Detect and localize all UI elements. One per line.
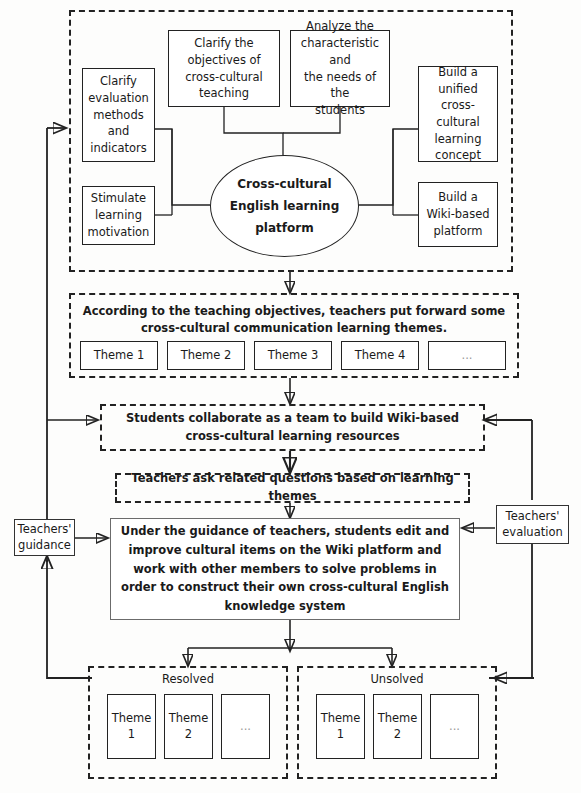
box-clarify-evaluation[interactable]: Clarify evaluation methods and indicator… xyxy=(82,68,155,162)
step-main-wiki-editing[interactable]: Under the guidance of teachers, students… xyxy=(110,518,460,620)
resolved-theme-box-more[interactable]: ... xyxy=(221,694,270,759)
box-build-unified-concept-label: Build a unified cross- cultural learning… xyxy=(422,64,494,164)
unsolved-theme-box-more[interactable]: ... xyxy=(430,694,479,759)
center-node-platform[interactable]: Cross-cultural English learning platform xyxy=(210,155,359,257)
node-teachers-guidance-label: Teachers' guidance xyxy=(15,522,74,553)
unsolved-theme-box-2-label: Theme 2 xyxy=(378,711,418,742)
resolved-theme-box-2-label: Theme 2 xyxy=(169,711,209,742)
theme-box-2-label: Theme 2 xyxy=(181,348,232,364)
theme-box-more-label: ... xyxy=(462,348,473,364)
unsolved-theme-box-1[interactable]: Theme 1 xyxy=(316,694,365,759)
theme-box-3[interactable]: Theme 3 xyxy=(254,341,332,370)
unsolved-theme-box-1-label: Theme 1 xyxy=(321,711,361,742)
resolved-theme-box-more-label: ... xyxy=(240,719,251,735)
node-teachers-guidance[interactable]: Teachers' guidance xyxy=(14,519,75,556)
theme-box-4[interactable]: Theme 4 xyxy=(341,341,419,370)
resolved-theme-box-2[interactable]: Theme 2 xyxy=(164,694,213,759)
box-clarify-evaluation-label: Clarify evaluation methods and indicator… xyxy=(86,73,151,156)
box-build-unified-concept[interactable]: Build a unified cross- cultural learning… xyxy=(418,66,498,162)
box-stimulate-motivation[interactable]: Stimulate learning motivation xyxy=(82,186,155,245)
theme-box-1[interactable]: Theme 1 xyxy=(80,341,158,370)
unsolved-theme-box-more-label: ... xyxy=(449,719,460,735)
node-teachers-evaluation-label: Teachers' evaluation xyxy=(497,509,568,540)
box-analyze-characteristic[interactable]: Analyze the characteristic and the needs… xyxy=(290,30,390,107)
unsolved-theme-box-2[interactable]: Theme 2 xyxy=(373,694,422,759)
step-students-collaborate-label: Students collaborate as a team to build … xyxy=(108,410,477,446)
box-clarify-objectives[interactable]: Clarify the objectives of cross-cultural… xyxy=(168,30,280,107)
theme-box-1-label: Theme 1 xyxy=(94,348,145,364)
resolved-theme-box-1[interactable]: Theme 1 xyxy=(107,694,156,759)
step-teachers-questions-label: Teachers ask related questions based on … xyxy=(123,470,462,506)
resolved-region-label: Resolved xyxy=(88,672,288,686)
step-main-wiki-editing-label: Under the guidance of teachers, students… xyxy=(119,522,451,617)
node-teachers-evaluation[interactable]: Teachers' evaluation xyxy=(496,505,569,544)
step-teachers-questions[interactable]: Teachers ask related questions based on … xyxy=(115,473,470,503)
unsolved-region-label: Unsolved xyxy=(297,672,497,686)
box-analyze-characteristic-label: Analyze the characteristic and the needs… xyxy=(294,18,386,118)
box-stimulate-motivation-label: Stimulate learning motivation xyxy=(86,190,151,240)
themes-region-heading: According to the teaching objectives, te… xyxy=(80,303,508,338)
box-build-wiki-platform-label: Build a Wiki-based platform xyxy=(422,189,494,239)
theme-box-more[interactable]: ... xyxy=(428,341,506,370)
center-node-label: Cross-cultural English learning platform xyxy=(211,173,358,240)
resolved-theme-box-1-label: Theme 1 xyxy=(112,711,152,742)
flowchart-canvas: Clarify evaluation methods and indicator… xyxy=(0,0,581,793)
box-clarify-objectives-label: Clarify the objectives of cross-cultural… xyxy=(172,35,276,102)
theme-box-4-label: Theme 4 xyxy=(355,348,406,364)
theme-box-2[interactable]: Theme 2 xyxy=(167,341,245,370)
theme-box-3-label: Theme 3 xyxy=(268,348,319,364)
step-students-collaborate[interactable]: Students collaborate as a team to build … xyxy=(100,404,485,451)
box-build-wiki-platform[interactable]: Build a Wiki-based platform xyxy=(418,182,498,247)
